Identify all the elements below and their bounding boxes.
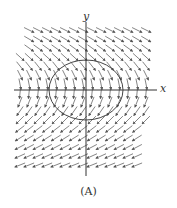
field-arrow — [133, 126, 142, 133]
field-arrow — [15, 144, 25, 149]
field-arrow — [25, 116, 33, 124]
field-arrow — [27, 70, 32, 80]
field-arrow — [125, 106, 131, 115]
field-arrow — [97, 126, 106, 133]
field-arrow — [123, 144, 133, 149]
field-arrow — [51, 36, 60, 42]
field-arrow — [34, 116, 42, 124]
field-arrow — [100, 88, 101, 99]
field-arrow — [34, 126, 43, 133]
field-arrow — [106, 126, 115, 133]
field-arrow — [16, 116, 24, 124]
field-arrow — [114, 144, 124, 149]
field-arrow — [19, 88, 20, 99]
field-arrow — [33, 28, 43, 33]
field-arrow — [123, 163, 133, 167]
field-arrow — [43, 45, 52, 51]
field-arrow — [145, 88, 146, 99]
field-arrow — [36, 97, 40, 107]
field-arrow — [81, 97, 85, 107]
field-arrow — [106, 116, 114, 124]
field-arrow — [105, 36, 114, 42]
field-arrow — [64, 88, 65, 99]
field-arrow — [71, 62, 78, 71]
field-arrow — [27, 97, 31, 107]
field-arrow — [89, 62, 96, 71]
field-arrow — [135, 70, 140, 80]
field-arrow — [141, 36, 150, 42]
field-arrow — [114, 163, 124, 167]
field-arrow — [52, 53, 60, 60]
field-arrow — [80, 106, 86, 115]
field-arrow — [62, 106, 68, 115]
field-arrow — [99, 97, 103, 107]
field-arrow — [43, 116, 51, 124]
field-arrow — [60, 135, 69, 141]
field-arrow — [62, 62, 69, 71]
field-arrow — [108, 70, 113, 80]
field-arrow — [42, 154, 52, 159]
field-arrow — [61, 126, 70, 133]
field-arrow — [52, 45, 61, 51]
field-arrow — [109, 88, 110, 99]
field-arrow — [36, 70, 41, 80]
field-arrow — [80, 62, 87, 71]
field-arrow — [73, 88, 74, 99]
field-arrow — [60, 36, 69, 42]
field-arrow — [26, 62, 33, 71]
field-arrow — [16, 126, 25, 133]
field-arrow — [132, 36, 141, 42]
field-arrow — [114, 36, 123, 42]
field-arrow — [118, 88, 119, 99]
field-arrow — [132, 135, 141, 141]
field-arrow — [15, 163, 25, 167]
field-arrow — [108, 97, 112, 107]
field-arrow — [105, 135, 114, 141]
field-arrow — [61, 45, 70, 51]
field-arrow — [15, 135, 24, 141]
field-arrow — [114, 154, 124, 159]
field-arrow — [51, 163, 61, 167]
field-arrow — [72, 97, 76, 107]
field-arrow — [116, 62, 123, 71]
field-arrow — [134, 106, 140, 115]
field-arrow — [132, 154, 142, 159]
field-arrow — [141, 28, 151, 33]
field-arrow — [98, 106, 104, 115]
field-arrow — [106, 45, 115, 51]
field-arrow — [105, 163, 115, 167]
field-arrow — [69, 36, 78, 42]
field-arrow — [69, 163, 79, 167]
field-arrow — [124, 116, 132, 124]
field-arrow — [24, 28, 34, 33]
field-arrow — [43, 53, 51, 60]
field-arrow — [71, 106, 77, 115]
field-arrow — [17, 62, 24, 71]
field-arrow — [69, 144, 79, 149]
field-arrow — [35, 62, 42, 71]
vector-field-arrows — [15, 28, 151, 168]
field-arrow — [87, 28, 97, 33]
y-axis-label: y — [83, 10, 89, 23]
vector-field-diagram — [0, 0, 177, 208]
field-arrow — [51, 154, 61, 159]
field-arrow — [17, 106, 23, 115]
field-arrow — [132, 28, 142, 33]
field-arrow — [106, 53, 114, 60]
field-arrow — [60, 144, 70, 149]
field-arrow — [123, 154, 133, 159]
field-arrow — [124, 53, 132, 60]
field-arrow — [90, 70, 95, 80]
field-arrow — [81, 70, 86, 80]
x-axis-label: x — [160, 82, 166, 95]
field-arrow — [42, 163, 52, 167]
field-arrow — [133, 53, 141, 60]
field-arrow — [134, 62, 141, 71]
field-arrow — [52, 126, 61, 133]
field-arrow — [87, 135, 96, 141]
field-arrow — [18, 97, 22, 107]
field-arrow — [97, 45, 106, 51]
field-arrow — [51, 135, 60, 141]
field-arrow — [142, 116, 150, 124]
field-arrow — [52, 116, 60, 124]
